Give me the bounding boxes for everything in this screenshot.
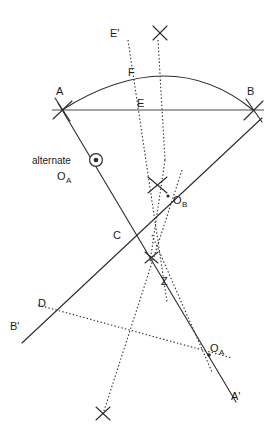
alternate-O-sub-label: A [66,176,72,185]
label-O-B: O B [173,194,187,209]
annotation-alternate-O-A: alternate O A [32,155,72,185]
label-F: F [128,66,135,78]
label-O-A-sub: A [219,348,225,357]
label-O-B-sub: B [182,200,187,209]
label-C: C [113,229,121,241]
arc-A-F-B [62,76,253,110]
cross-top-center-icon [153,26,167,40]
cross-near-O-B-icon [148,177,167,193]
label-B: B [247,85,254,97]
cross-bottom-icon [96,407,110,420]
label-O-B-main: O [173,194,182,206]
label-B-prime: B' [10,320,19,332]
point-dot-O-B [166,194,169,197]
label-O-A: O A [210,342,225,357]
alternate-word-label: alternate [32,155,71,166]
label-O-A-main: O [210,342,219,354]
alternate-O-main-label: O [57,170,66,182]
alternate-O-A-marker-icon [90,154,103,167]
ray-B-to-B-prime [22,118,262,343]
label-A-prime: A' [231,390,240,402]
dotted-line-D-to-O-A [38,305,232,358]
label-E: E [137,97,144,109]
diagram-root: A B E' F E C D Z A' B' O B O A alternate… [0,0,272,447]
label-D: D [38,297,46,309]
geometry-canvas: A B E' F E C D Z A' B' O B O A alternate… [0,0,272,447]
dotted-bisector-O-B-right [152,235,212,372]
ray-A-to-A-prime [58,103,236,402]
label-A: A [56,85,64,97]
label-E-prime: E' [110,27,119,39]
label-Z: Z [161,275,168,287]
dotted-perpendicular-E-upper [158,40,165,160]
